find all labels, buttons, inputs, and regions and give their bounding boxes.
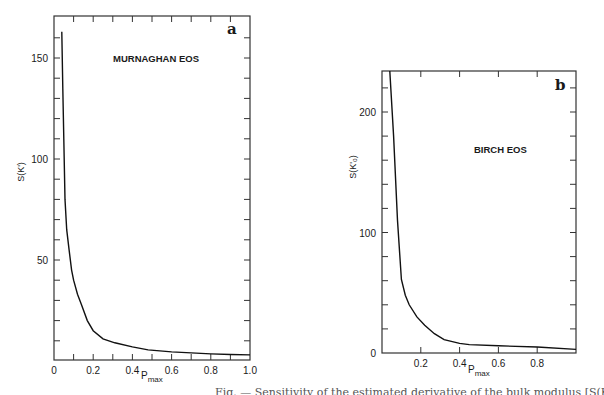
svg-text:0.6: 0.6 xyxy=(165,365,179,376)
svg-text:150: 150 xyxy=(31,53,48,64)
svg-text:0.2: 0.2 xyxy=(414,358,428,369)
svg-text:0: 0 xyxy=(370,348,376,359)
panel-b-xlabel: Pmax xyxy=(468,364,490,378)
svg-text:0.2: 0.2 xyxy=(86,365,100,376)
figure-caption: Fig. — Sensitivity of the estimated deri… xyxy=(215,386,604,395)
panel-a-xlabel: Pmax xyxy=(141,370,163,384)
svg-text:0.6: 0.6 xyxy=(491,358,505,369)
svg-text:0.8: 0.8 xyxy=(530,358,544,369)
svg-text:100: 100 xyxy=(359,228,376,239)
svg-text:50: 50 xyxy=(37,255,49,266)
svg-text:200: 200 xyxy=(359,107,376,118)
svg-text:0.4: 0.4 xyxy=(125,365,139,376)
svg-text:0: 0 xyxy=(51,365,57,376)
panel-b-ylabel: S(K'₀) xyxy=(348,155,358,178)
panel-b-curve xyxy=(390,71,576,349)
panel-b-frame xyxy=(382,71,576,353)
panel-a-letter: a xyxy=(227,20,237,38)
svg-text:0.8: 0.8 xyxy=(204,365,218,376)
panel-b-annotation: BIRCH EOS xyxy=(474,144,527,155)
panel-a-murnaghan: 5010015000.20.40.60.81.0 MURNAGHAN EOS a… xyxy=(16,16,257,384)
figure-canvas: 5010015000.20.40.60.81.0 MURNAGHAN EOS a… xyxy=(0,0,604,395)
panel-a-ylabel: S(K') xyxy=(16,162,26,182)
svg-text:1.0: 1.0 xyxy=(243,365,257,376)
panel-b-letter: b xyxy=(555,76,566,94)
panel-a-annotation: MURNAGHAN EOS xyxy=(113,53,199,64)
panel-b-birch: 01002000.20.40.60.8 BIRCH EOS b S(K'₀) P… xyxy=(348,71,576,378)
panel-a-curve xyxy=(62,32,250,355)
panel-b-ticks xyxy=(382,71,576,353)
svg-text:100: 100 xyxy=(31,154,48,165)
svg-text:0.4: 0.4 xyxy=(453,358,467,369)
